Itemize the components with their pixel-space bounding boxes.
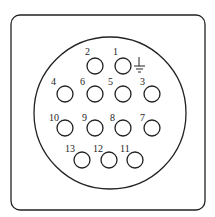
pin-label: 3 — [140, 76, 145, 87]
pin-5 — [115, 86, 131, 102]
pin-1 — [115, 58, 131, 74]
pin-7 — [144, 120, 160, 136]
pin-6 — [87, 86, 103, 102]
pin-label: 2 — [85, 46, 90, 57]
pin-label: 11 — [120, 143, 130, 154]
pin-10 — [57, 120, 73, 136]
pin-label: 4 — [51, 76, 56, 87]
pin-label: 10 — [49, 112, 59, 123]
pin-label: 1 — [113, 46, 118, 57]
pin-12 — [101, 152, 117, 168]
pin-label: 13 — [65, 143, 75, 154]
connector-housing-outline — [11, 15, 205, 210]
pin-9 — [87, 120, 103, 136]
pin-4 — [57, 86, 73, 102]
pin-label: 12 — [93, 143, 103, 154]
pin-label: 9 — [82, 112, 87, 123]
pin-11 — [127, 152, 143, 168]
pin-3 — [144, 86, 160, 102]
pin-label: 8 — [110, 112, 115, 123]
pin-label: 5 — [108, 76, 113, 87]
pin-2 — [87, 58, 103, 74]
pin-group: 12345678910111213 — [49, 46, 160, 168]
pin-label: 7 — [140, 112, 145, 123]
pin-13 — [74, 152, 90, 168]
ground-icon — [134, 57, 145, 72]
pin-8 — [115, 120, 131, 136]
connector-pinout-diagram: 12345678910111213 — [0, 0, 215, 217]
pin-label: 6 — [80, 76, 85, 87]
